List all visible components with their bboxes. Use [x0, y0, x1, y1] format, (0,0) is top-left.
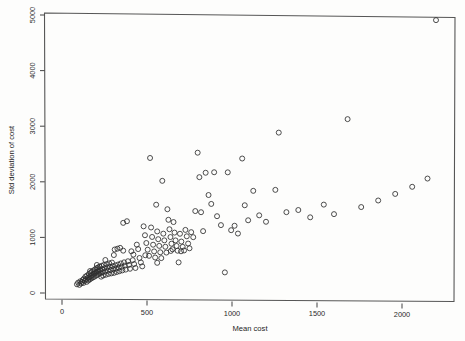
data-point [393, 191, 398, 196]
x-tick-label: 0 [60, 307, 64, 316]
data-point [143, 253, 148, 258]
data-point [159, 256, 164, 261]
data-point [156, 237, 161, 242]
data-point [209, 201, 214, 206]
data-point [111, 253, 116, 258]
y-tick-label: 4000 [28, 62, 37, 78]
plot-canvas: 010002000300040005000 0500100015002000 M… [0, 0, 465, 341]
data-point [201, 229, 206, 234]
data-point [172, 230, 177, 235]
data-point [284, 210, 289, 215]
data-point [203, 170, 208, 175]
data-point [187, 246, 192, 251]
data-point [193, 209, 198, 214]
data-point [177, 231, 182, 236]
data-point [189, 230, 194, 235]
data-point [206, 193, 211, 198]
x-axis-title: Mean cost [232, 324, 268, 333]
data-point [149, 225, 154, 230]
data-point [276, 130, 281, 135]
y-axis: 010002000300040005000 [28, 7, 45, 295]
plot-frame [45, 13, 456, 302]
data-point [195, 150, 200, 155]
data-point [425, 176, 430, 181]
data-point [246, 218, 251, 223]
data-point [155, 229, 160, 234]
data-point [321, 202, 326, 207]
data-point [176, 260, 181, 265]
data-point [155, 260, 160, 265]
data-point [136, 247, 141, 252]
data-point [212, 170, 217, 175]
data-point [142, 233, 147, 238]
data-point [179, 249, 184, 254]
data-point [154, 202, 159, 207]
x-tick-label: 2000 [394, 310, 410, 319]
data-point [157, 243, 162, 248]
data-point [161, 231, 166, 236]
data-point [171, 220, 176, 225]
data-point [240, 156, 245, 161]
data-point [345, 117, 350, 122]
data-point [144, 241, 149, 246]
data-point [179, 239, 184, 244]
y-tick-label: 3000 [28, 118, 37, 134]
data-points-layer [74, 18, 438, 288]
data-point [174, 243, 179, 248]
data-point [215, 214, 220, 219]
data-point [162, 238, 167, 243]
data-point [150, 234, 155, 239]
data-point [434, 18, 439, 23]
data-point [332, 212, 337, 217]
data-point [251, 188, 256, 193]
data-point [308, 215, 313, 220]
data-point [376, 198, 381, 203]
y-tick-label: 2000 [28, 174, 37, 190]
data-point [158, 250, 163, 255]
data-point [141, 224, 146, 229]
data-point [120, 268, 125, 273]
x-axis: 0500100015002000 [60, 300, 410, 320]
y-tick-label: 1000 [28, 229, 37, 245]
data-point [186, 241, 191, 246]
data-point [160, 178, 165, 183]
data-point [257, 213, 262, 218]
data-point [229, 228, 234, 233]
data-point [151, 242, 156, 247]
y-tick-label: 0 [28, 291, 37, 295]
data-point [410, 184, 415, 189]
data-point [167, 227, 172, 232]
data-point [165, 207, 170, 212]
data-point [183, 227, 188, 232]
x-tick-label: 1500 [309, 309, 325, 318]
data-point [232, 223, 237, 228]
y-tick-label: 5000 [28, 7, 37, 23]
data-point [222, 270, 227, 275]
data-point [296, 208, 301, 213]
data-point [197, 175, 202, 180]
x-tick-label: 500 [141, 308, 153, 317]
data-point [225, 170, 230, 175]
data-point [153, 255, 158, 260]
data-point [264, 219, 269, 224]
data-point [145, 247, 150, 252]
data-point [199, 210, 204, 215]
scatter-plot-figure: 010002000300040005000 0500100015002000 M… [0, 0, 465, 341]
data-point [242, 203, 247, 208]
data-point [148, 155, 153, 160]
data-point [168, 235, 173, 240]
data-point [184, 234, 189, 239]
x-tick-label: 1000 [224, 309, 240, 318]
data-point [191, 235, 196, 240]
data-point [235, 231, 240, 236]
data-point [173, 238, 178, 243]
data-point [152, 249, 157, 254]
data-point [121, 248, 126, 253]
data-point [273, 187, 278, 192]
data-point [218, 223, 223, 228]
data-point [359, 205, 364, 210]
data-point [166, 217, 171, 222]
data-point [163, 244, 168, 249]
y-axis-title: Std deviation of cost [7, 125, 16, 194]
